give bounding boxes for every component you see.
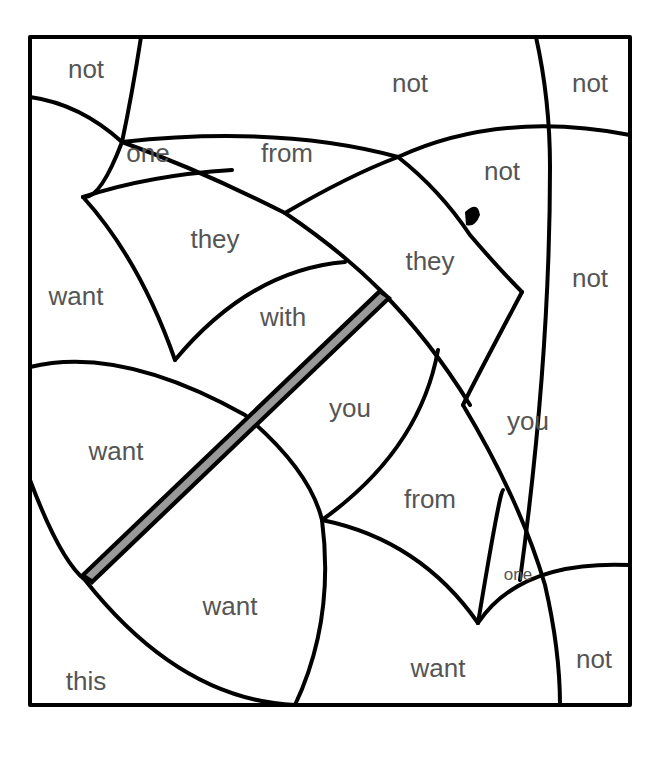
region-label: want bbox=[88, 436, 145, 466]
region-label: not bbox=[576, 644, 613, 674]
coloring-page: not not not one from not they they want … bbox=[0, 0, 654, 757]
region-label: this bbox=[66, 666, 106, 696]
region-label: with bbox=[259, 302, 306, 332]
region-label: they bbox=[405, 246, 454, 276]
region-label: one bbox=[504, 565, 532, 584]
region-label: not bbox=[392, 68, 429, 98]
region-label: want bbox=[410, 653, 467, 683]
region-label: not bbox=[572, 263, 609, 293]
region-label: you bbox=[507, 406, 549, 436]
region-label: not bbox=[68, 54, 105, 84]
outline bbox=[30, 37, 630, 705]
region-label: from bbox=[404, 484, 456, 514]
region-label: want bbox=[202, 591, 259, 621]
region-label: you bbox=[329, 393, 371, 423]
region-label: one bbox=[126, 138, 169, 168]
region-label: want bbox=[48, 281, 105, 311]
region-label: from bbox=[261, 138, 313, 168]
region-label: not bbox=[484, 156, 521, 186]
region-label: they bbox=[190, 224, 239, 254]
word-labels: not not not one from not they they want … bbox=[48, 54, 613, 696]
region-label: not bbox=[572, 68, 609, 98]
